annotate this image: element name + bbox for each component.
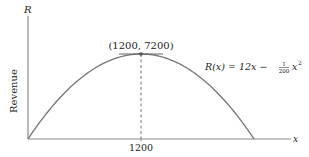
- equation-lhs: R(x) = 12x −: [204, 61, 267, 72]
- equation-frac-num: 1: [282, 61, 286, 67]
- max-point-label: (1200, 7200): [108, 40, 173, 51]
- x-tick-label-1200: 1200: [129, 142, 153, 153]
- max-point-marker: [139, 52, 143, 56]
- chart-svg: R x Revenue (1200, 7200) 1200 R(x) = 12x…: [0, 0, 309, 157]
- revenue-axis-title: Revenue: [8, 69, 19, 113]
- equation-frac-den: 200: [279, 68, 290, 74]
- y-axis-label: R: [23, 4, 32, 15]
- revenue-chart: R x Revenue (1200, 7200) 1200 R(x) = 12x…: [0, 0, 309, 157]
- function-equation: R(x) = 12x − 1 200 x 2: [204, 59, 302, 74]
- x-axis-label: x: [293, 134, 298, 144]
- equation-exponent: 2: [298, 59, 302, 66]
